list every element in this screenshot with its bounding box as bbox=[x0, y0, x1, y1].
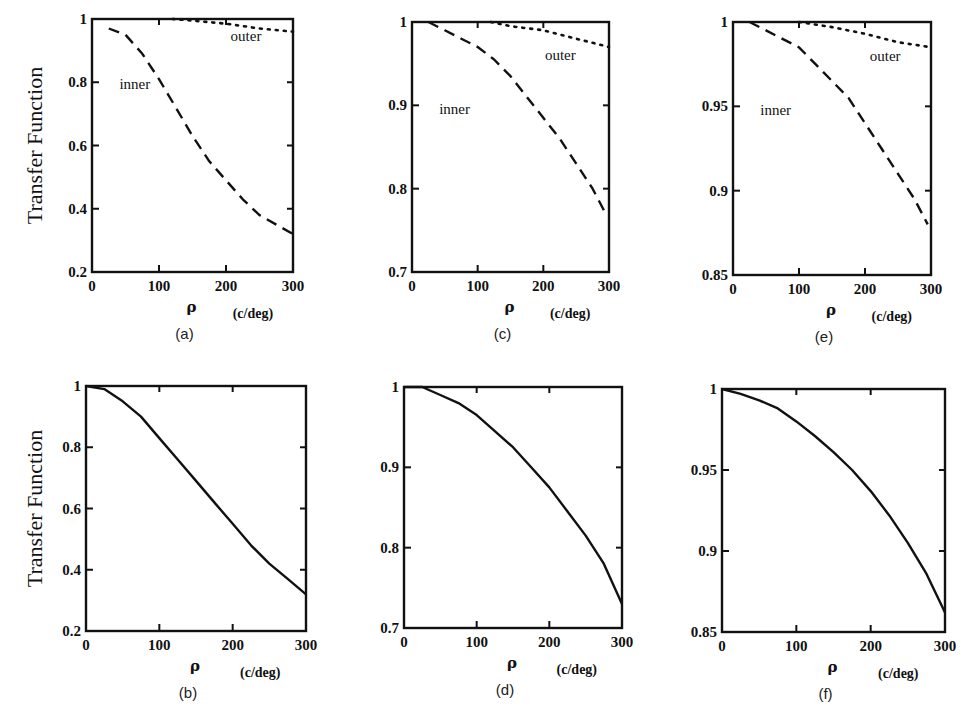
x-axis-unit: (c/deg) bbox=[240, 665, 281, 681]
y-axis-label: Transfer Function bbox=[22, 67, 47, 224]
series-transfer-line bbox=[722, 389, 945, 613]
x-tick-label: 0 bbox=[82, 637, 90, 653]
y-tick-label: 1 bbox=[80, 11, 88, 27]
panel-label: (b) bbox=[179, 684, 197, 701]
x-axis-symbol: ρ bbox=[190, 657, 200, 675]
y-tick-label: 0.7 bbox=[380, 620, 399, 636]
plot-frame bbox=[733, 22, 931, 275]
y-tick-label: 0.4 bbox=[68, 201, 87, 217]
y-tick-label: 0.2 bbox=[68, 264, 87, 280]
x-tick-label: 100 bbox=[466, 278, 489, 294]
y-tick-label: 1 bbox=[392, 379, 400, 395]
x-tick-label: 300 bbox=[611, 634, 634, 650]
y-tick-label: 0.85 bbox=[702, 267, 728, 283]
curve-label-outer: outer bbox=[545, 47, 576, 63]
y-tick-label: 0.8 bbox=[62, 439, 81, 455]
x-axis-symbol: ρ bbox=[187, 298, 197, 316]
y-tick-label: 0.95 bbox=[702, 98, 728, 114]
y-tick-label: 0.85 bbox=[691, 624, 717, 640]
x-tick-label: 100 bbox=[788, 281, 811, 297]
x-axis-unit: (c/deg) bbox=[557, 662, 598, 678]
panel-e: 01002003000.850.90.951innerouterρ(c/deg)… bbox=[702, 14, 943, 345]
panel-label: (f) bbox=[818, 685, 832, 702]
x-tick-label: 200 bbox=[859, 638, 882, 654]
series-inner-line bbox=[750, 22, 928, 224]
x-tick-label: 200 bbox=[215, 278, 238, 294]
curve-label-outer: outer bbox=[870, 48, 901, 64]
y-tick-label: 0.8 bbox=[68, 74, 87, 90]
x-tick-label: 100 bbox=[148, 637, 171, 653]
y-tick-label: 0.9 bbox=[709, 183, 728, 199]
x-axis-unit: (c/deg) bbox=[550, 306, 591, 322]
x-tick-label: 0 bbox=[718, 638, 726, 654]
plot-frame bbox=[92, 19, 293, 272]
y-tick-label: 0.6 bbox=[62, 501, 81, 517]
x-tick-label: 100 bbox=[465, 634, 488, 650]
panel-label: (a) bbox=[175, 325, 193, 342]
x-tick-label: 300 bbox=[282, 278, 305, 294]
x-axis-unit: (c/deg) bbox=[872, 309, 913, 325]
series-inner-line bbox=[428, 22, 605, 214]
y-tick-label: 0.95 bbox=[691, 462, 717, 478]
y-tick-label: 0.8 bbox=[388, 181, 407, 197]
figure-canvas: 01002003000.20.40.60.81innerouterρ(c/deg… bbox=[0, 0, 969, 712]
x-tick-label: 300 bbox=[295, 637, 318, 653]
y-tick-label: 0.9 bbox=[698, 543, 717, 559]
x-axis-symbol: ρ bbox=[828, 658, 838, 676]
y-axis-label: Transfer Function bbox=[22, 430, 47, 587]
panel-c: 01002003000.70.80.91innerouterρ(c/deg)(c… bbox=[388, 14, 620, 342]
x-tick-label: 300 bbox=[920, 281, 943, 297]
x-tick-label: 0 bbox=[88, 278, 96, 294]
y-tick-label: 1 bbox=[721, 14, 729, 30]
panel-f: 01002003000.850.90.951ρ(c/deg)(f) bbox=[691, 381, 957, 702]
x-tick-label: 0 bbox=[400, 634, 408, 650]
x-tick-label: 300 bbox=[934, 638, 957, 654]
x-tick-label: 100 bbox=[785, 638, 808, 654]
series-transfer-line bbox=[404, 387, 622, 604]
curve-label-inner: inner bbox=[119, 76, 150, 92]
x-tick-label: 200 bbox=[221, 637, 244, 653]
x-tick-label: 200 bbox=[532, 278, 555, 294]
y-tick-label: 0.7 bbox=[388, 264, 407, 280]
x-axis-unit: (c/deg) bbox=[878, 666, 919, 682]
y-tick-label: 1 bbox=[710, 381, 718, 397]
x-axis-symbol: ρ bbox=[507, 654, 517, 672]
x-axis-symbol: ρ bbox=[505, 298, 515, 316]
y-tick-label: 0.8 bbox=[380, 540, 399, 556]
series-transfer-line bbox=[86, 386, 306, 594]
x-axis-symbol: ρ bbox=[826, 301, 836, 319]
panel-b: 01002003000.20.40.60.81ρ(c/deg)(b)Transf… bbox=[22, 378, 317, 701]
x-tick-label: 100 bbox=[148, 278, 171, 294]
panel-label: (e) bbox=[815, 328, 833, 345]
x-tick-label: 300 bbox=[598, 278, 621, 294]
y-tick-label: 0.4 bbox=[62, 562, 81, 578]
y-tick-label: 0.9 bbox=[388, 97, 407, 113]
x-axis-unit: (c/deg) bbox=[233, 306, 274, 322]
x-tick-label: 200 bbox=[854, 281, 877, 297]
x-tick-label: 200 bbox=[538, 634, 561, 650]
x-tick-label: 0 bbox=[408, 278, 416, 294]
curve-label-inner: inner bbox=[760, 102, 791, 118]
series-inner-line bbox=[109, 29, 293, 235]
y-tick-label: 0.9 bbox=[380, 459, 399, 475]
y-tick-label: 0.2 bbox=[62, 623, 81, 639]
panel-label: (d) bbox=[496, 681, 514, 698]
y-tick-label: 1 bbox=[400, 14, 408, 30]
series-outer-line bbox=[491, 22, 609, 47]
plot-frame bbox=[404, 387, 622, 628]
curve-label-outer: outer bbox=[231, 28, 262, 44]
panel-label: (c) bbox=[494, 325, 512, 342]
plot-frame bbox=[722, 389, 945, 632]
plot-frame bbox=[412, 22, 609, 272]
curve-label-inner: inner bbox=[439, 101, 470, 117]
plot-frame bbox=[86, 386, 306, 631]
x-tick-label: 0 bbox=[729, 281, 737, 297]
panel-a: 01002003000.20.40.60.81innerouterρ(c/deg… bbox=[22, 11, 304, 342]
panel-d: 01002003000.70.80.91ρ(c/deg)(d) bbox=[380, 379, 633, 698]
y-tick-label: 0.6 bbox=[68, 138, 87, 154]
y-tick-label: 1 bbox=[74, 378, 82, 394]
